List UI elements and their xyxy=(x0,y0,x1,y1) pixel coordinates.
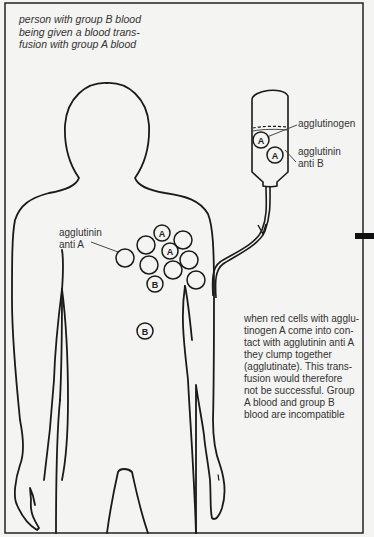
left-arm-inner xyxy=(60,250,63,400)
cell-empty xyxy=(164,261,182,279)
cell-label: A xyxy=(258,136,265,146)
explanation-line: blood are incompatible xyxy=(244,409,364,421)
explanation-line: when red cells with agglu- xyxy=(244,313,364,325)
figure-caption: person with group B blood being given a … xyxy=(19,13,219,51)
cell-label: B xyxy=(142,327,149,337)
left-inner-arm xyxy=(44,289,62,480)
label-agglutinin-anti-a: agglutinin anti A xyxy=(59,227,102,251)
label-text: anti B xyxy=(298,158,341,170)
label-text: agglutinin xyxy=(59,227,102,239)
caption-line: being given a blood trans- xyxy=(19,26,219,39)
cell-empty xyxy=(137,236,155,254)
label-text: agglutinin xyxy=(298,146,341,158)
cell-empty xyxy=(180,251,198,269)
cell-label: B xyxy=(152,280,159,290)
iv-tube-b xyxy=(216,187,271,298)
cell-empty xyxy=(187,271,205,289)
hand-detail xyxy=(218,475,219,480)
pointer-agglutinogen xyxy=(267,125,297,137)
edge-tick-mark xyxy=(355,233,374,239)
explanation-line: (agglutinate). This trans- xyxy=(244,361,364,373)
legs-gap xyxy=(107,469,148,533)
right-arm-upper-inner xyxy=(185,286,192,340)
label-agglutinin-anti-b: agglutinin anti B xyxy=(298,146,341,170)
left-torso-edge xyxy=(56,400,60,533)
cell-cluster xyxy=(116,225,205,339)
explanation-line: A blood and group B xyxy=(244,397,364,409)
label-text: agglutinogen xyxy=(298,118,355,129)
blood-transfusion-diagram: A A A A B B person with g xyxy=(0,0,374,537)
explanation-line: they clump together xyxy=(244,349,364,361)
fluid-level-line xyxy=(253,126,287,128)
pointer-anti-b xyxy=(285,150,296,162)
caption-line: person with group B blood xyxy=(19,13,219,26)
left-inner-arm-b xyxy=(62,289,68,480)
diagram-drawing: A A A A B B xyxy=(0,0,374,537)
explanation-line: tact with agglutinin anti A xyxy=(244,337,364,349)
cell-empty xyxy=(116,249,134,267)
cell-label: A xyxy=(167,247,174,257)
cell-label: A xyxy=(272,151,279,161)
cell-empty xyxy=(140,256,158,274)
explanation-text: when red cells with agglu- tinogen A com… xyxy=(244,313,364,421)
label-agglutinogen: agglutinogen xyxy=(298,118,355,130)
person-silhouette xyxy=(12,83,224,533)
explanation-line: tinogen A come into con- xyxy=(244,325,364,337)
caption-line: fusion with group A blood xyxy=(19,38,219,51)
explanation-line: not be successful. Group xyxy=(244,385,364,397)
explanation-line: fusion would therefore xyxy=(244,373,364,385)
cell-label: A xyxy=(159,229,166,239)
label-text: anti A xyxy=(59,239,102,251)
body-right-outline xyxy=(107,83,224,533)
blood-bag xyxy=(213,90,288,298)
